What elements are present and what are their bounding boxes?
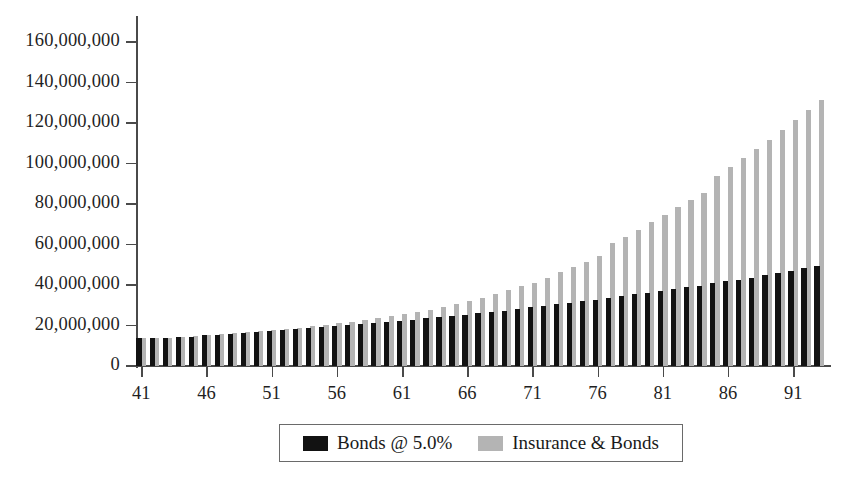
bar-bonds [358,324,363,366]
legend-label-insurance-bonds: Insurance & Bonds [512,432,659,454]
bar-bonds [554,304,559,366]
bar-bonds [775,273,780,366]
legend-item-bonds: Bonds @ 5.0% [303,432,452,454]
bar-bonds [723,281,728,366]
bar-bonds [423,318,428,366]
bar-bonds [749,278,754,366]
x-tick [663,366,665,377]
bar-chart: 020,000,00040,000,00060,000,00080,000,00… [0,0,846,483]
bar-bonds [267,331,272,366]
y-tick [126,82,137,84]
x-tick [467,366,469,377]
bar-bonds [710,283,715,366]
bar-bonds [788,271,793,366]
x-tick [793,366,795,377]
legend-label-bonds: Bonds @ 5.0% [337,432,452,454]
y-tick [126,203,137,205]
bar-bonds [436,317,441,366]
bar-bonds [593,300,598,366]
y-tick-label: 160,000,000 [25,30,120,51]
bar-bonds [241,333,246,366]
y-tick [126,365,137,367]
bar-bonds [671,289,676,366]
x-tick-label: 66 [447,383,487,404]
bar-bonds [645,293,650,366]
x-tick-label: 56 [317,383,357,404]
y-tick-label: 140,000,000 [25,71,120,92]
bar-bonds [371,323,376,366]
bar-bonds [567,303,572,366]
bar-bonds [280,330,285,366]
bar-bonds [762,275,767,366]
y-tick [126,284,137,286]
bar-bonds [189,337,194,366]
x-tick-label: 46 [186,383,226,404]
bar-bonds [345,325,350,366]
x-tick-label: 51 [252,383,292,404]
x-tick-label: 81 [643,383,683,404]
bar-bonds [658,291,663,366]
chart-legend: Bonds @ 5.0% Insurance & Bonds [279,424,683,462]
y-tick [126,122,137,124]
x-tick [402,366,404,377]
bar-bonds [384,322,389,366]
bar-bonds [462,315,467,366]
y-tick [126,163,137,165]
x-tick [337,366,339,377]
bar-bonds [410,320,415,366]
x-tick-label: 71 [512,383,552,404]
bar-bonds [619,296,624,366]
bar-bonds [515,309,520,366]
x-tick [206,366,208,377]
bar-bonds [150,338,155,366]
y-tick-label: 40,000,000 [35,273,120,294]
bar-bonds [489,312,494,366]
x-tick [141,366,143,377]
bar-bonds [397,321,402,366]
x-tick [532,366,534,377]
x-tick-label: 91 [773,383,813,404]
y-tick-label: 60,000,000 [35,233,120,254]
legend-item-insurance-bonds: Insurance & Bonds [478,432,659,454]
bar-bonds [541,306,546,366]
dark-swatch-icon [303,436,328,451]
bar-bonds [697,286,702,366]
bar-bonds [801,268,806,366]
y-tick [126,41,137,43]
bar-bonds [332,326,337,366]
y-tick [126,244,137,246]
y-tick-label: 100,000,000 [25,152,120,173]
y-tick-label: 20,000,000 [35,314,120,335]
y-tick-label: 120,000,000 [25,111,120,132]
bar-bonds [580,301,585,366]
x-tick-label: 61 [382,383,422,404]
y-tick [126,325,137,327]
bar-bonds [736,280,741,366]
plot-area [137,42,830,366]
x-tick-label: 76 [578,383,618,404]
bar-bonds [136,338,141,366]
bar-bonds [475,313,480,366]
bar-bonds [163,338,168,366]
bar-bonds [502,311,507,366]
bar-bonds [319,327,324,366]
bar-bonds [293,329,298,366]
bar-bonds [606,298,611,366]
bar-bonds [632,294,637,366]
x-tick-label: 41 [121,383,161,404]
bar-bonds [528,307,533,366]
x-tick-label: 86 [708,383,748,404]
x-tick [272,366,274,377]
light-swatch-icon [478,436,503,451]
y-tick-label: 80,000,000 [35,192,120,213]
bar-bonds [254,332,259,366]
bar-bonds [449,316,454,366]
bar-bonds [202,335,207,366]
bar-bonds [215,335,220,366]
y-tick-label: 0 [111,354,120,375]
x-tick [728,366,730,377]
bar-bonds [228,334,233,366]
bar-bonds [176,337,181,366]
x-tick [598,366,600,377]
bar-bonds [306,328,311,366]
